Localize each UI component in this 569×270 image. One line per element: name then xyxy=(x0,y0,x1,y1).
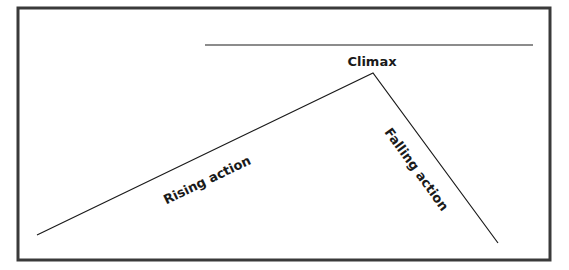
climax-label: Climax xyxy=(347,54,397,69)
plot-diagram: Climax Rising action Falling action xyxy=(0,0,569,270)
diagram-frame xyxy=(18,8,550,260)
